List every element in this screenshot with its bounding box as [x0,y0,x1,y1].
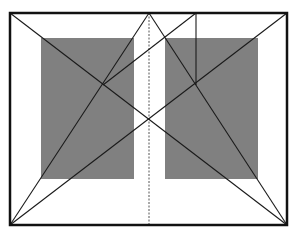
van-de-graaf-diagram [0,0,298,238]
left-text-block [41,38,134,179]
